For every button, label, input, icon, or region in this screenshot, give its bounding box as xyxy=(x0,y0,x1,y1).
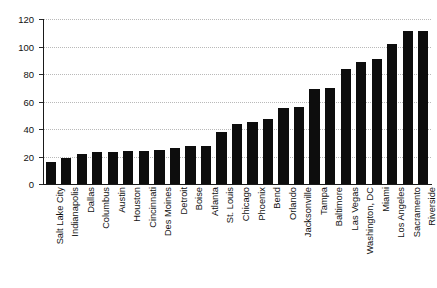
y-axis-tick-label: 100 xyxy=(0,41,34,52)
x-axis-tick-label: Atlanta xyxy=(210,187,221,216)
bar xyxy=(309,89,319,184)
x-axis-tick-label: Boise xyxy=(194,187,205,210)
x-axis-tick-label: Bend xyxy=(272,187,283,209)
x-axis-tick-label: Las Vegas xyxy=(350,187,361,230)
x-axis-tick-label: Phoenix xyxy=(257,187,268,221)
x-axis-tick-label: Baltimore xyxy=(334,187,345,226)
bar xyxy=(108,152,118,184)
x-axis-tick-label: Indianapolis xyxy=(70,187,81,237)
bar xyxy=(418,31,428,184)
bar xyxy=(46,162,56,184)
bar xyxy=(372,59,382,184)
bar xyxy=(123,151,133,184)
bar xyxy=(356,62,366,184)
x-axis-tick-label: Des Moines xyxy=(163,187,174,236)
x-axis-tick-label: Austin xyxy=(117,187,128,213)
y-axis-tick-label: 20 xyxy=(0,151,34,162)
bar-chart: 020406080100120 Salt Lake CityIndianapol… xyxy=(0,0,437,288)
x-axis-line xyxy=(43,184,432,185)
y-axis-line xyxy=(43,19,44,185)
x-axis-tick-label: Riverside xyxy=(427,187,437,226)
bar xyxy=(278,108,288,184)
x-axis-tick-label: Dallas xyxy=(86,187,97,213)
y-axis-tick-label: 80 xyxy=(0,69,34,80)
plot-area xyxy=(43,19,431,184)
bar xyxy=(387,44,397,184)
x-axis-tick-label: St. Louis xyxy=(225,187,236,223)
bar xyxy=(232,124,242,185)
y-axis-tick-label: 0 xyxy=(0,179,34,190)
x-axis-tick-label: Sacramento xyxy=(412,187,423,237)
y-axis: 020406080100120 xyxy=(0,0,38,288)
x-axis-tick-label: Los Angeles xyxy=(396,187,407,238)
bar xyxy=(185,146,195,185)
x-axis-tick-label: Orlando xyxy=(288,187,299,220)
bar xyxy=(325,88,335,184)
x-axis-tick-label: Detroit xyxy=(179,187,190,214)
x-axis-tick-label: Houston xyxy=(132,187,143,222)
bar xyxy=(263,119,273,184)
bar xyxy=(61,158,71,184)
x-axis-tick-label: Chicago xyxy=(241,187,252,221)
bars-layer xyxy=(43,19,431,184)
x-axis-tick-label: Salt Lake City xyxy=(55,187,66,244)
x-axis-labels: Salt Lake CityIndianapolisDallasColumbus… xyxy=(43,187,431,287)
bar xyxy=(341,69,351,185)
x-axis-tick-label: Miami xyxy=(381,187,392,212)
x-axis-tick-label: Cincinnati xyxy=(148,187,159,228)
bar xyxy=(77,154,87,184)
bar xyxy=(139,151,149,184)
y-axis-tick-label: 40 xyxy=(0,124,34,135)
x-axis-tick-label: Washington, DC xyxy=(365,187,376,254)
y-axis-tick-label: 120 xyxy=(0,14,34,25)
bar xyxy=(154,150,164,184)
bar xyxy=(201,146,211,185)
bar xyxy=(403,31,413,184)
bar xyxy=(92,152,102,184)
bar xyxy=(294,107,304,184)
x-axis-tick-label: Columbus xyxy=(101,187,112,229)
bar xyxy=(247,122,257,184)
bar xyxy=(170,148,180,184)
y-axis-tick-label: 60 xyxy=(0,96,34,107)
x-axis-tick-label: Tampa xyxy=(319,187,330,215)
bar xyxy=(216,132,226,184)
x-axis-tick-label: Jacksonville xyxy=(303,187,314,237)
